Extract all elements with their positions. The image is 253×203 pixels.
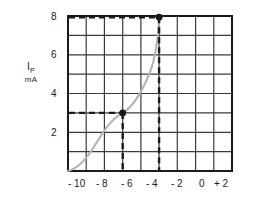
data-point-low — [119, 110, 126, 117]
x-tick-label--8: - 8 — [96, 178, 108, 189]
x-tick-label--4: - 4 — [146, 178, 158, 189]
y-tick-label-2: 2 — [51, 127, 57, 138]
x-tick-label-0: 0 — [199, 178, 205, 189]
chart-svg — [0, 0, 253, 203]
y-tick-label-6: 6 — [51, 49, 57, 60]
x-tick-label-2: + 2 — [214, 178, 228, 189]
y-tick-label-4: 4 — [51, 88, 57, 99]
data-point-high — [156, 14, 163, 21]
y-axis-symbol-subscript: P — [30, 67, 35, 74]
y-axis-label-units: mA — [14, 74, 48, 85]
x-tick-label--10: - 10 — [68, 178, 85, 189]
x-tick-label--2: - 2 — [171, 178, 183, 189]
y-axis-label-symbol: IP — [14, 62, 48, 74]
x-tick-label--6: - 6 — [121, 178, 133, 189]
y-tick-label-8: 8 — [51, 11, 57, 22]
y-axis-units-text: mA — [25, 75, 38, 84]
transfer-characteristic-chart: IP mA 8 6 4 2 - 10 - 8 - 6 - 4 - 2 0 + 2 — [0, 0, 253, 203]
y-axis-label: IP mA — [14, 62, 48, 85]
